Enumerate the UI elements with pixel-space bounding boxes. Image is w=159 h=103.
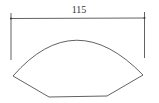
dimension-line: [10, 18, 145, 19]
sector-bottom-outline: [13, 75, 143, 97]
left-dimension-tick: [10, 18, 12, 20]
sector-arc: [13, 40, 143, 76]
right-dimension-tick: [144, 17, 146, 19]
dimension-label: 115: [68, 5, 90, 15]
sector-drawing: [0, 0, 159, 103]
